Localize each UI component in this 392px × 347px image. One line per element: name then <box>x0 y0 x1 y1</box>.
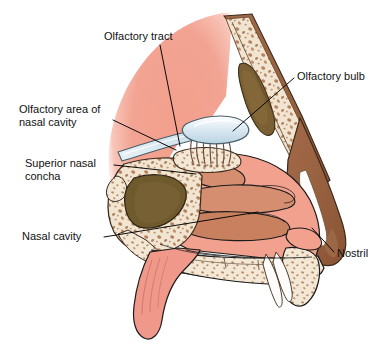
label-superior-nasal-concha: Superior nasal concha <box>25 157 96 183</box>
label-olfactory-area-of-nasal-cavity: Olfactory area of nasal cavity <box>19 103 100 129</box>
label-olfactory-tract: Olfactory tract <box>104 30 172 43</box>
nasal-anatomy-figure: Olfactory tract Olfactory bulb Olfactory… <box>0 0 392 347</box>
label-nasal-cavity: Nasal cavity <box>22 230 81 243</box>
soft-palate-uvula <box>133 248 200 339</box>
label-nostril: Nostril <box>337 247 368 260</box>
label-olfactory-bulb: Olfactory bulb <box>297 70 365 83</box>
